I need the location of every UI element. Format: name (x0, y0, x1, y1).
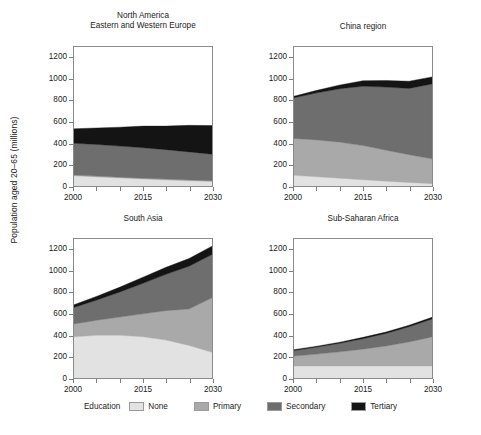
x-tick-label: 2030 (193, 193, 233, 202)
x-tick-mark (166, 379, 167, 383)
y-tick-mark (69, 122, 73, 123)
y-tick-label: 1000 (31, 266, 67, 275)
x-tick-mark (433, 187, 434, 191)
legend-label: Secondary (286, 402, 325, 411)
y-tick-mark (289, 357, 293, 358)
x-tick-mark (120, 187, 121, 191)
x-tick-mark (386, 379, 387, 383)
y-tick-label: 800 (31, 95, 67, 104)
panel-title: China region (293, 22, 433, 32)
x-tick-label: 2000 (273, 193, 313, 202)
x-tick-label: 2015 (123, 193, 163, 202)
y-tick-mark (69, 144, 73, 145)
x-tick-mark (190, 187, 191, 191)
x-tick-mark (410, 187, 411, 191)
y-tick-label: 1200 (251, 244, 287, 253)
y-tick-mark (69, 271, 73, 272)
y-tick-label: 0 (31, 182, 67, 191)
y-axis-label: Population aged 20–65 (millions) (9, 80, 19, 280)
x-tick-mark (96, 187, 97, 191)
x-tick-label: 2030 (413, 193, 453, 202)
y-tick-label: 0 (251, 182, 287, 191)
y-tick-mark (289, 336, 293, 337)
x-tick-mark (363, 379, 364, 383)
y-tick-label: 200 (31, 160, 67, 169)
y-tick-mark (289, 271, 293, 272)
legend-entry[interactable]: None (129, 402, 168, 411)
y-tick-label: 1000 (31, 74, 67, 83)
plot-area (73, 238, 213, 379)
x-tick-mark (386, 187, 387, 191)
x-tick-label: 2015 (343, 385, 383, 394)
y-tick-label: 600 (31, 117, 67, 126)
y-tick-mark (69, 292, 73, 293)
x-tick-label: 2015 (123, 385, 163, 394)
x-tick-mark (316, 379, 317, 383)
y-tick-mark (289, 249, 293, 250)
legend-entry[interactable]: Tertiary (351, 402, 397, 411)
y-tick-mark (289, 144, 293, 145)
legend-entry[interactable]: Primary (194, 402, 241, 411)
panel-title: Sub-Saharan Africa (293, 214, 433, 224)
figure-stacked-area-panels: Population aged 20–65 (millions) North A… (0, 0, 481, 435)
y-tick-mark (289, 100, 293, 101)
y-tick-label: 1000 (251, 266, 287, 275)
y-tick-label: 400 (31, 331, 67, 340)
legend-entries: NonePrimarySecondaryTertiary (129, 402, 397, 411)
x-tick-mark (96, 379, 97, 383)
x-tick-mark (213, 379, 214, 383)
legend-swatch-secondary (267, 402, 282, 411)
legend-swatch-none (129, 402, 144, 411)
x-tick-mark (293, 379, 294, 383)
legend: Education NonePrimarySecondaryTertiary (0, 402, 481, 411)
y-tick-label: 200 (31, 352, 67, 361)
y-tick-mark (69, 79, 73, 80)
y-tick-mark (69, 249, 73, 250)
y-tick-label: 400 (251, 331, 287, 340)
x-tick-mark (340, 379, 341, 383)
x-tick-label: 2000 (273, 385, 313, 394)
x-tick-mark (190, 379, 191, 383)
panel-title: North America Eastern and Western Europe (73, 11, 213, 31)
legend-label: Primary (213, 402, 241, 411)
y-tick-mark (69, 314, 73, 315)
x-tick-mark (340, 187, 341, 191)
x-tick-label: 2030 (413, 385, 453, 394)
y-tick-mark (69, 357, 73, 358)
y-tick-mark (289, 165, 293, 166)
x-tick-mark (143, 187, 144, 191)
panel-title: South Asia (73, 214, 213, 224)
y-tick-mark (289, 314, 293, 315)
legend-entry[interactable]: Secondary (267, 402, 325, 411)
y-tick-label: 800 (251, 287, 287, 296)
x-tick-label: 2000 (53, 385, 93, 394)
y-tick-label: 400 (31, 139, 67, 148)
plot-area (293, 46, 433, 187)
x-tick-label: 2015 (343, 193, 383, 202)
legend-swatch-primary (194, 402, 209, 411)
y-tick-label: 200 (251, 352, 287, 361)
y-tick-label: 0 (31, 374, 67, 383)
y-tick-mark (69, 100, 73, 101)
legend-title: Education (84, 402, 120, 411)
y-tick-label: 400 (251, 139, 287, 148)
y-tick-label: 1200 (251, 52, 287, 61)
y-tick-mark (289, 79, 293, 80)
x-tick-mark (73, 379, 74, 383)
x-tick-label: 2030 (193, 385, 233, 394)
x-tick-mark (120, 379, 121, 383)
plot-area (73, 46, 213, 187)
y-tick-label: 1200 (31, 52, 67, 61)
y-tick-label: 1200 (31, 244, 67, 253)
y-tick-mark (289, 122, 293, 123)
x-tick-mark (363, 187, 364, 191)
x-tick-mark (410, 379, 411, 383)
x-tick-mark (293, 187, 294, 191)
x-tick-mark (316, 187, 317, 191)
y-tick-mark (69, 57, 73, 58)
y-tick-label: 800 (31, 287, 67, 296)
y-tick-label: 1000 (251, 74, 287, 83)
plot-area (293, 238, 433, 379)
x-tick-mark (433, 379, 434, 383)
y-tick-label: 600 (251, 309, 287, 318)
